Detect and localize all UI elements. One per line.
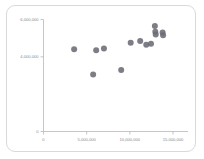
x-tick-label: 15,000,000 — [163, 137, 184, 142]
data-point — [160, 32, 166, 38]
y-tick-label: 4,000,000 — [20, 54, 39, 59]
y-tick-label: 0 — [36, 129, 39, 134]
data-point — [137, 38, 143, 44]
x-tick-label: 0 — [42, 137, 45, 142]
plot-area: 04,000,0006,000,000 05,000,00010,000,000… — [0, 0, 204, 159]
chart-svg: 04,000,0006,000,000 05,000,00010,000,000… — [0, 0, 204, 159]
y-axis-group: 04,000,0006,000,000 — [20, 17, 43, 134]
y-tick-label: 6,000,000 — [20, 17, 39, 22]
scatter-plot-screenshot: 04,000,0006,000,000 05,000,00010,000,000… — [0, 0, 204, 159]
x-axis-ticks: 05,000,00010,000,00015,000,000 — [42, 132, 184, 142]
data-point — [153, 31, 159, 37]
x-tick-label: 5,000,000 — [78, 137, 97, 142]
data-point — [148, 41, 154, 47]
x-axis-group: 05,000,00010,000,00015,000,000 — [42, 132, 188, 142]
data-point — [101, 45, 107, 51]
data-point — [93, 47, 99, 53]
data-point — [90, 72, 96, 78]
data-point — [118, 67, 124, 73]
data-point — [152, 23, 158, 29]
y-axis-ticks: 04,000,0006,000,000 — [20, 17, 43, 134]
data-points-group — [71, 23, 166, 78]
x-tick-label: 10,000,000 — [120, 137, 141, 142]
data-point — [71, 46, 77, 52]
data-point — [128, 40, 134, 46]
